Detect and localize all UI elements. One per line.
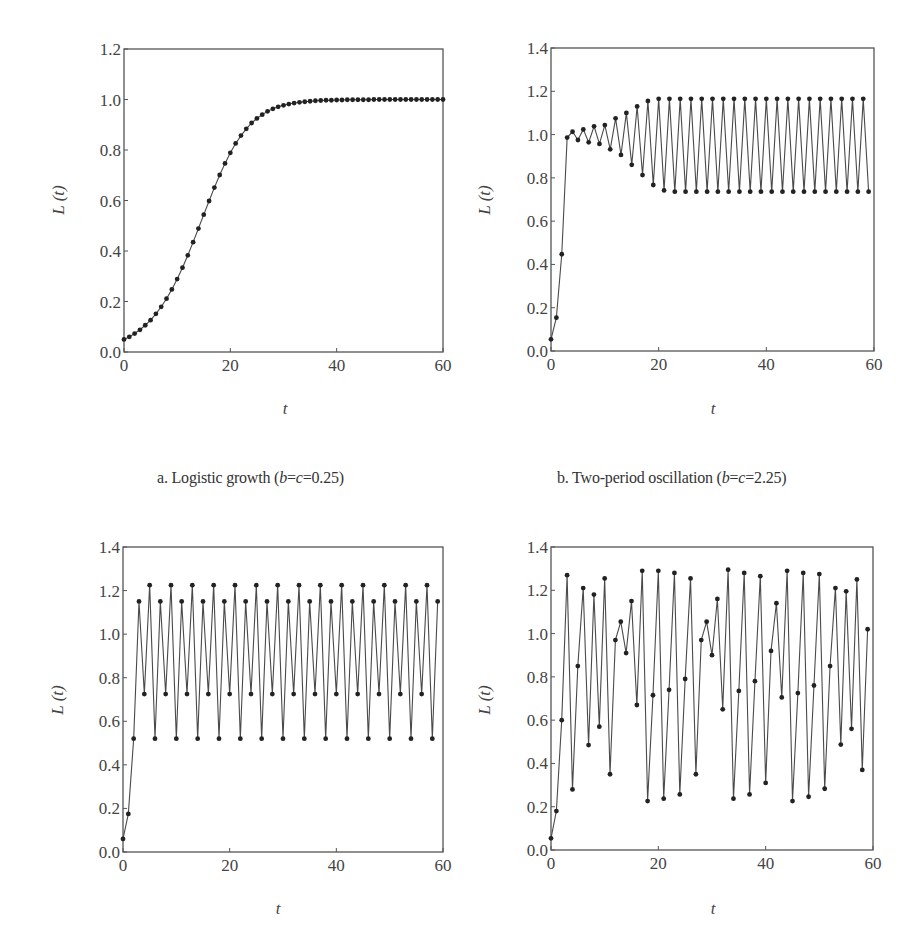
- data-point-marker: [812, 189, 817, 194]
- data-point-marker: [175, 277, 180, 282]
- data-point-marker: [201, 212, 206, 217]
- data-point-marker: [829, 96, 834, 101]
- data-point-marker: [163, 692, 168, 697]
- data-point-marker: [640, 173, 645, 178]
- caption-two-period-oscillation: b. Two-period oscillation (b=c=2.25): [557, 469, 786, 487]
- data-point-marker: [334, 98, 339, 103]
- data-point-marker: [313, 692, 318, 697]
- data-point-marker: [393, 599, 398, 604]
- y-axis-label: L (t): [49, 185, 68, 216]
- x-tick-label: 0: [119, 856, 128, 875]
- data-point-marker: [758, 574, 763, 579]
- y-tick-label: 0.6: [99, 712, 120, 731]
- data-point-marker: [153, 736, 158, 741]
- data-point-marker: [850, 96, 855, 101]
- data-point-marker: [132, 331, 137, 336]
- data-point-marker: [565, 573, 570, 578]
- data-point-marker: [796, 96, 801, 101]
- data-point-marker: [190, 583, 195, 588]
- data-point-marker: [297, 100, 302, 105]
- data-point-marker: [646, 99, 651, 104]
- data-point-marker: [672, 571, 677, 576]
- data-point-marker: [223, 161, 228, 166]
- y-tick-label: 0.8: [100, 141, 121, 160]
- data-point-marker: [425, 97, 430, 102]
- data-point-marker: [441, 97, 446, 102]
- data-point-marker: [180, 265, 185, 270]
- data-point-marker: [779, 695, 784, 700]
- y-tick-label: 0.8: [99, 669, 120, 688]
- data-point-marker: [575, 664, 580, 669]
- caption-text: =2.25): [745, 469, 786, 486]
- x-tick-label: 60: [435, 856, 452, 875]
- data-point-marker: [122, 337, 127, 342]
- data-point-marker: [142, 692, 147, 697]
- data-point-marker: [624, 651, 629, 656]
- data-point-marker: [763, 781, 768, 786]
- data-point-marker: [736, 689, 741, 694]
- data-point-marker: [297, 583, 302, 588]
- series-markers: [549, 567, 870, 840]
- data-point-marker: [559, 718, 564, 723]
- data-point-marker: [802, 189, 807, 194]
- data-point-marker: [329, 98, 334, 103]
- chart-panel-c: 0.00.20.40.60.81.01.21.40204060L (t)t: [48, 538, 452, 918]
- data-point-marker: [855, 189, 860, 194]
- data-point-marker: [254, 583, 259, 588]
- data-point-marker: [629, 162, 634, 167]
- data-point-marker: [398, 692, 403, 697]
- data-point-marker: [361, 97, 366, 102]
- y-tick-label: 1.0: [99, 625, 120, 644]
- data-point-marker: [419, 97, 424, 102]
- data-point-marker: [586, 140, 591, 145]
- data-point-marker: [677, 792, 682, 797]
- y-tick-label: 1.0: [527, 126, 548, 145]
- data-point-marker: [554, 809, 559, 814]
- data-point-marker: [747, 792, 752, 797]
- data-point-marker: [281, 736, 286, 741]
- data-point-marker: [291, 692, 296, 697]
- y-axis-label: L (t): [48, 685, 67, 716]
- data-point-marker: [849, 726, 854, 731]
- data-point-marker: [270, 692, 275, 697]
- y-tick-label: 1.2: [99, 582, 120, 601]
- data-point-marker: [169, 287, 174, 292]
- series-line: [551, 570, 868, 839]
- data-point-marker: [613, 116, 618, 121]
- x-tick-label: 20: [221, 856, 238, 875]
- y-tick-label: 1.4: [527, 39, 549, 58]
- y-tick-label: 0.0: [99, 843, 120, 862]
- data-point-marker: [356, 97, 361, 102]
- data-point-marker: [345, 736, 350, 741]
- x-axis-label: t: [711, 899, 717, 918]
- data-point-marker: [705, 189, 710, 194]
- data-point-marker: [121, 837, 126, 842]
- data-point-marker: [699, 96, 704, 101]
- y-tick-label: 0.4: [100, 242, 122, 261]
- x-axis-label: t: [283, 399, 289, 418]
- data-point-marker: [860, 768, 865, 773]
- caption-text: b. Two-period oscillation (: [557, 469, 722, 486]
- data-point-marker: [672, 189, 677, 194]
- data-point-marker: [597, 141, 602, 146]
- data-point-marker: [196, 226, 201, 231]
- data-point-marker: [667, 687, 672, 692]
- y-tick-label: 0.0: [100, 343, 121, 362]
- data-point-marker: [801, 571, 806, 576]
- data-point-marker: [833, 586, 838, 591]
- data-point-marker: [340, 98, 345, 103]
- data-point-marker: [350, 97, 355, 102]
- y-tick-label: 0.0: [527, 342, 548, 361]
- y-tick-label: 1.0: [527, 625, 548, 644]
- data-point-marker: [425, 583, 430, 588]
- x-tick-label: 0: [120, 356, 129, 375]
- data-point-marker: [861, 96, 866, 101]
- data-point-marker: [559, 252, 564, 257]
- y-tick-label: 1.2: [527, 581, 548, 600]
- data-point-marker: [683, 189, 688, 194]
- data-point-marker: [233, 583, 238, 588]
- data-point-marker: [307, 599, 312, 604]
- data-point-marker: [737, 189, 742, 194]
- data-point-marker: [645, 799, 650, 804]
- data-point-marker: [592, 124, 597, 129]
